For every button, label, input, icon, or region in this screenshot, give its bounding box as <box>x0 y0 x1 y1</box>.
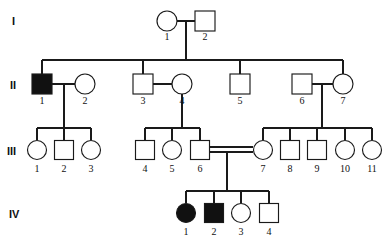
individual-IV-2-male-affected[interactable] <box>205 204 224 223</box>
individual-label-II-6: 6 <box>300 95 305 106</box>
pedigree-chart: I II III IV <box>0 0 390 246</box>
individual-label-IV-4: 4 <box>267 226 272 237</box>
individual-label-III-9: 9 <box>315 163 320 174</box>
individual-label-III-7: 7 <box>261 163 266 174</box>
generation-III-group: 1 2 3 4 5 6 7 8 9 10 11 <box>28 141 382 175</box>
individual-III-3-female-unaffected[interactable] <box>82 141 101 160</box>
individual-label-III-2: 2 <box>62 163 67 174</box>
individual-label-IV-2: 2 <box>212 226 217 237</box>
individual-label-III-1: 1 <box>35 163 40 174</box>
generation-II-group: 1 2 3 4 5 6 7 <box>32 74 353 106</box>
individual-label-II-1: 1 <box>40 95 45 106</box>
individual-II-5-male-unaffected[interactable] <box>230 74 250 94</box>
individual-II-7-female-unaffected[interactable] <box>333 74 353 94</box>
individual-III-6-male-unaffected[interactable] <box>191 141 210 160</box>
individual-label-III-3: 3 <box>89 163 94 174</box>
generation-IV-group: 1 2 3 4 <box>177 204 279 238</box>
individual-III-2-male-unaffected[interactable] <box>55 141 74 160</box>
individual-IV-3-female-unaffected[interactable] <box>232 204 251 223</box>
individual-III-10-female-unaffected[interactable] <box>336 141 355 160</box>
individual-III-1-female-unaffected[interactable] <box>28 141 47 160</box>
individual-III-8-male-unaffected[interactable] <box>281 141 300 160</box>
individual-II-1-male-affected[interactable] <box>32 74 52 94</box>
individual-label-III-6: 6 <box>198 163 203 174</box>
individual-label-I-2: 2 <box>203 31 208 42</box>
individual-III-4-male-unaffected[interactable] <box>136 141 155 160</box>
individual-IV-1-female-affected[interactable] <box>177 204 196 223</box>
individual-III-9-male-unaffected[interactable] <box>308 141 327 160</box>
individual-label-III-10: 10 <box>340 163 350 174</box>
individual-I-1-female-unaffected[interactable] <box>157 11 177 31</box>
individual-II-3-male-unaffected[interactable] <box>133 74 153 94</box>
individual-label-II-5: 5 <box>238 95 243 106</box>
generation-label-IV: IV <box>9 208 20 220</box>
individual-IV-4-male-unaffected[interactable] <box>260 204 279 223</box>
individual-I-2-male-unaffected[interactable] <box>195 11 215 31</box>
individual-label-II-4: 4 <box>180 95 185 106</box>
individual-label-II-7: 7 <box>341 95 346 106</box>
individual-II-2-female-unaffected[interactable] <box>75 74 95 94</box>
pedigree-connectors <box>37 21 372 203</box>
individual-label-II-2: 2 <box>83 95 88 106</box>
pedigree-canvas: I II III IV <box>0 0 390 246</box>
individual-III-5-female-unaffected[interactable] <box>163 141 182 160</box>
individual-label-IV-1: 1 <box>184 226 189 237</box>
individual-II-4-female-unaffected[interactable] <box>172 74 192 94</box>
individual-label-III-4: 4 <box>143 163 148 174</box>
individual-label-II-3: 3 <box>141 95 146 106</box>
generation-label-II: II <box>10 79 16 91</box>
generation-label-I: I <box>12 15 15 27</box>
individual-label-III-8: 8 <box>288 163 293 174</box>
individual-III-11-female-unaffected[interactable] <box>363 141 382 160</box>
individual-III-7-female-unaffected[interactable] <box>254 141 273 160</box>
individual-label-I-1: 1 <box>165 31 170 42</box>
individual-label-III-5: 5 <box>170 163 175 174</box>
individual-II-6-male-unaffected[interactable] <box>292 74 312 94</box>
individual-label-IV-3: 3 <box>239 226 244 237</box>
generation-label-III: III <box>7 145 16 157</box>
individual-label-III-11: 11 <box>367 163 377 174</box>
